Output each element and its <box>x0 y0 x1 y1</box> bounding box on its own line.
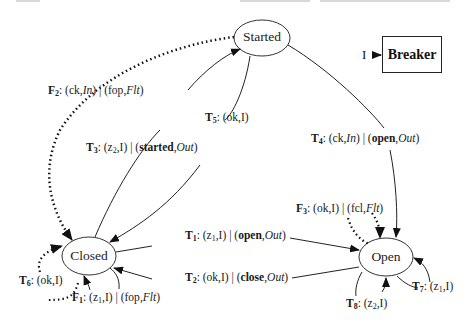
transition-F3-right <box>372 213 380 238</box>
transition-T3 <box>188 49 240 90</box>
breaker-label: Breaker <box>388 47 437 63</box>
transition-T4 <box>288 45 384 128</box>
transition-T8-arc <box>356 272 362 296</box>
transition-T4-lower <box>390 150 397 237</box>
transition-F2 <box>49 37 234 240</box>
transition-T2-left <box>114 268 152 279</box>
label-T7: T7: (z1,I) <box>412 281 453 294</box>
transition-F1-arrow <box>84 276 90 290</box>
state-closed-label: Closed <box>62 249 116 263</box>
transition-T1-right <box>290 238 359 250</box>
label-F1: F1: (z1,I) | (fop,Flt) <box>72 292 160 305</box>
label-T4: T4: (ck,In) | (open,Out) <box>311 133 419 146</box>
label-T6: T6: (ok,I) <box>19 275 63 288</box>
transition-T2-right <box>292 267 359 278</box>
breaker-input-label: I <box>362 47 366 63</box>
state-open-label: Open <box>359 250 413 264</box>
transition-T7 <box>414 258 430 282</box>
transition-T8 <box>382 278 386 292</box>
label-T3: T3: (z2,I) | (started,Out) <box>86 142 198 155</box>
breaker-component: Breaker <box>382 36 442 73</box>
transition-F3-left <box>348 218 369 244</box>
transition-T1-left <box>116 246 152 252</box>
label-F2: F2: (ck,In) | (fop,Flt) <box>48 85 144 98</box>
transition-F1-arc <box>110 268 119 289</box>
label-T1: T1: (z1,I) | (open,Out) <box>185 230 286 243</box>
label-T8: T8: (z2,I) <box>346 298 387 311</box>
state-started-label: Started <box>235 30 289 44</box>
label-T2: T2: (ok,I) | (close,Out) <box>185 272 288 285</box>
label-F3: F3: (ok,I) | (fcl,Flt) <box>296 203 383 216</box>
transition-T6-loop <box>39 246 62 272</box>
label-T5: T5: (ok,I) <box>205 112 249 125</box>
